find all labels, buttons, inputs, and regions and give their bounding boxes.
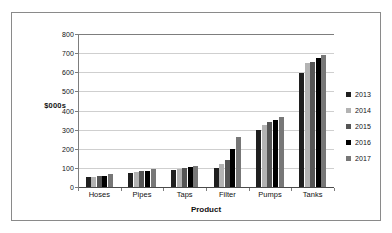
y-tick-label: 0 — [48, 184, 74, 191]
legend-item[interactable]: 2014 — [346, 102, 390, 118]
bar — [262, 125, 267, 187]
legend-swatch-icon — [346, 108, 351, 113]
bar — [310, 62, 315, 187]
x-tick-label: Pumps — [258, 190, 281, 199]
y-tick-mark — [75, 53, 78, 54]
bar-group — [86, 34, 113, 187]
bar — [230, 149, 235, 187]
legend-swatch-icon — [346, 140, 351, 145]
bar — [139, 171, 144, 187]
legend-label: 2015 — [355, 123, 371, 130]
legend-item[interactable]: 2013 — [346, 86, 390, 102]
bar — [256, 130, 261, 187]
bar — [225, 160, 230, 187]
bar — [188, 167, 193, 187]
y-tick-mark — [75, 130, 78, 131]
x-tick-label: Tanks — [303, 190, 323, 199]
y-tick-label: 800 — [48, 31, 74, 38]
legend: 20132014201520162017 — [346, 86, 390, 166]
legend-label: 2013 — [355, 91, 371, 98]
y-tick-mark — [75, 111, 78, 112]
x-tick-label: Filter — [219, 190, 236, 199]
bar — [182, 168, 187, 187]
bar — [108, 174, 113, 187]
legend-swatch-icon — [346, 156, 351, 161]
bar — [273, 120, 278, 187]
bar — [267, 122, 272, 187]
bar — [151, 169, 156, 187]
bar — [145, 171, 150, 187]
y-tick-mark — [75, 34, 78, 35]
bar — [177, 169, 182, 187]
bar-group — [256, 34, 283, 187]
bar — [102, 176, 107, 187]
y-tick-label: 500 — [48, 88, 74, 95]
x-axis-tick-labels: HosesPipesTapsFilterPumpsTanks — [78, 190, 334, 202]
y-tick-mark — [75, 149, 78, 150]
chart-frame: $000s 0100200300400500600700800 HosesPip… — [11, 12, 381, 221]
x-tick-mark — [163, 188, 164, 191]
x-axis-title: Product — [78, 205, 334, 214]
bar-group — [171, 34, 198, 187]
y-tick-label: 100 — [48, 164, 74, 171]
x-tick-mark — [291, 188, 292, 191]
legend-label: 2017 — [355, 155, 371, 162]
legend-label: 2014 — [355, 107, 371, 114]
y-axis-tick-labels: 0100200300400500600700800 — [46, 34, 74, 187]
y-tick-mark — [75, 91, 78, 92]
legend-item[interactable]: 2017 — [346, 150, 390, 166]
bar — [214, 168, 219, 187]
bar — [134, 172, 139, 187]
y-tick-label: 700 — [48, 50, 74, 57]
y-tick-label: 600 — [48, 69, 74, 76]
legend-item[interactable]: 2016 — [346, 134, 390, 150]
bar-group — [299, 34, 326, 187]
x-tick-mark — [206, 188, 207, 191]
x-tick-mark — [249, 188, 250, 191]
bar-group — [214, 34, 241, 187]
y-tick-label: 200 — [48, 145, 74, 152]
bar — [305, 63, 310, 187]
x-tick-label: Hoses — [89, 190, 110, 199]
bar-group — [128, 34, 155, 187]
y-tick-label: 400 — [48, 107, 74, 114]
x-tick-label: Taps — [177, 190, 193, 199]
bar — [299, 73, 304, 187]
bar — [316, 58, 321, 187]
bars-layer — [78, 34, 334, 187]
bar — [91, 177, 96, 187]
x-tick-mark — [121, 188, 122, 191]
y-tick-label: 300 — [48, 126, 74, 133]
bar — [193, 166, 198, 187]
x-tick-mark — [78, 188, 79, 191]
legend-swatch-icon — [346, 124, 351, 129]
x-tick-label: Pipes — [133, 190, 152, 199]
bar — [236, 137, 241, 187]
bar — [279, 117, 284, 187]
bar — [321, 55, 326, 187]
bar — [86, 177, 91, 187]
legend-label: 2016 — [355, 139, 371, 146]
bar — [128, 173, 133, 187]
bar — [97, 176, 102, 187]
y-tick-mark — [75, 168, 78, 169]
bar — [171, 170, 176, 187]
legend-swatch-icon — [346, 92, 351, 97]
legend-item[interactable]: 2015 — [346, 118, 390, 134]
x-tick-mark — [334, 188, 335, 191]
y-tick-mark — [75, 72, 78, 73]
bar — [219, 164, 224, 187]
